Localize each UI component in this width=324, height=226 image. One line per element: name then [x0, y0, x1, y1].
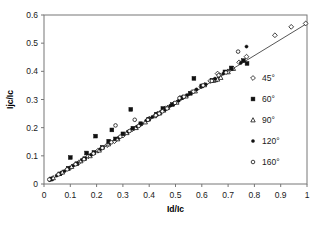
- data-point: [74, 162, 78, 166]
- data-point: [245, 45, 248, 48]
- legend-marker-90deg: [251, 118, 255, 122]
- x-axis-title: Id/Ic: [167, 204, 184, 214]
- data-point: [239, 61, 242, 64]
- data-point: [133, 118, 137, 122]
- data-point: [118, 135, 122, 139]
- y-axis-title: Ijc/Ic: [5, 90, 15, 109]
- data-point: [137, 124, 141, 128]
- legend-marker-160deg: [251, 160, 255, 164]
- data-point: [92, 152, 96, 156]
- scatter-chart: 00.10.20.30.40.50.60.70.80.9100.10.20.30…: [0, 0, 324, 226]
- x-tick-label: 0.9: [275, 190, 287, 200]
- legend-marker-60deg: [251, 97, 255, 101]
- data-point: [213, 77, 216, 80]
- legend-label-90deg: 90°: [262, 115, 275, 125]
- legend-label-120deg: 120°: [262, 136, 280, 146]
- x-tick-label: 0.5: [170, 190, 182, 200]
- data-point: [245, 62, 249, 66]
- data-point: [85, 151, 89, 155]
- data-point: [244, 54, 249, 59]
- y-tick-label: 0: [33, 179, 38, 189]
- x-tick-label: 0: [42, 190, 47, 200]
- data-point: [151, 115, 154, 118]
- data-point: [128, 129, 132, 133]
- legend-label-160deg: 160°: [262, 157, 280, 167]
- data-point: [65, 168, 69, 172]
- data-point: [110, 141, 114, 145]
- y-tick-label: 0.2: [26, 123, 38, 133]
- data-point: [161, 110, 165, 114]
- data-point: [94, 134, 98, 138]
- x-tick-label: 0.3: [117, 190, 129, 200]
- data-point: [114, 124, 118, 128]
- data-point: [173, 101, 177, 105]
- x-tick-label: 1: [305, 190, 310, 200]
- data-point: [182, 95, 186, 99]
- data-point: [101, 146, 105, 150]
- data-point: [68, 156, 72, 160]
- legend: 45°60°90°120°160°: [251, 73, 280, 167]
- data-point: [146, 118, 150, 122]
- data-point: [165, 107, 169, 111]
- legend-label-45deg: 45°: [262, 73, 275, 83]
- y-tick-label: 0.4: [26, 66, 38, 76]
- x-tick-label: 0.2: [91, 190, 103, 200]
- data-point: [129, 107, 133, 111]
- data-point: [195, 88, 198, 91]
- data-point: [110, 128, 114, 132]
- y-tick-label: 0.6: [26, 10, 38, 20]
- data-point: [217, 73, 221, 77]
- legend-marker-45deg: [251, 76, 256, 81]
- x-tick-label: 0.4: [143, 190, 155, 200]
- data-point: [192, 76, 196, 80]
- data-point: [236, 50, 240, 54]
- data-point: [201, 84, 205, 88]
- data-point: [224, 71, 228, 75]
- data-point: [47, 178, 51, 182]
- data-point: [154, 113, 158, 117]
- y-tick-label: 0.5: [26, 38, 38, 48]
- y-tick-label: 0.3: [26, 95, 38, 105]
- chart-canvas: 00.10.20.30.40.50.60.70.80.9100.10.20.30…: [0, 0, 324, 226]
- data-point: [178, 96, 182, 100]
- legend-marker-120deg: [251, 139, 254, 142]
- x-tick-label: 0.7: [222, 190, 234, 200]
- data-point: [210, 79, 214, 83]
- data-point: [230, 67, 233, 70]
- data-point: [57, 173, 61, 177]
- legend-label-60deg: 60°: [262, 94, 275, 104]
- data-point: [273, 33, 278, 38]
- x-tick-label: 0.1: [64, 190, 76, 200]
- y-tick-label: 0.1: [26, 151, 38, 161]
- data-point: [289, 24, 294, 29]
- series-90deg: [51, 66, 236, 179]
- data-point: [82, 157, 86, 161]
- x-tick-label: 0.6: [196, 190, 208, 200]
- x-tick-label: 0.8: [248, 190, 260, 200]
- data-point: [186, 93, 189, 96]
- data-point: [169, 104, 172, 107]
- data-point: [192, 90, 196, 94]
- data-point: [51, 176, 55, 180]
